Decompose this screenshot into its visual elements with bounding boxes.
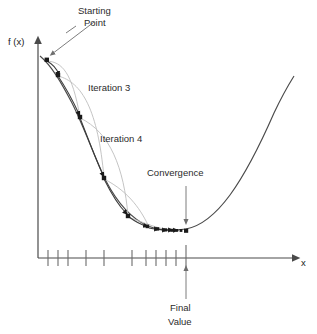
descent-step-3 bbox=[80, 118, 103, 175]
descent-step-1 bbox=[47, 61, 59, 74]
descent-step-5 bbox=[129, 217, 146, 226]
y-axis-label: f (x) bbox=[8, 36, 24, 47]
iteration-marker bbox=[180, 229, 183, 232]
starting-point-label-line1: Starting bbox=[78, 5, 111, 16]
descent-step-2 bbox=[58, 76, 79, 114]
x-axis-label: x bbox=[301, 257, 306, 268]
iteration-marker bbox=[170, 229, 173, 232]
objective-function-curve bbox=[40, 56, 294, 230]
iteration-marker bbox=[56, 73, 60, 77]
final-value-label-line1: Final bbox=[170, 302, 191, 313]
iteration-marker bbox=[102, 176, 106, 180]
iteration-marker-start bbox=[45, 58, 49, 62]
iteration-marker bbox=[146, 225, 150, 229]
iteration-4-label: Iteration 4 bbox=[100, 133, 142, 144]
iteration-marker bbox=[156, 227, 159, 230]
optimization-convergence-figure: f (x) x Starting Point Iteration 3 Itera… bbox=[0, 0, 317, 334]
starting-point-leader-tail bbox=[66, 26, 76, 33]
iteration-marker bbox=[126, 214, 130, 218]
iteration-marker bbox=[175, 229, 178, 232]
final-value-label-line2: Value bbox=[168, 316, 192, 327]
iteration-marker bbox=[78, 115, 82, 119]
iteration-3-label: Iteration 3 bbox=[88, 82, 130, 93]
convergence-label: Convergence bbox=[147, 167, 204, 178]
x-axis-ticks bbox=[48, 245, 186, 268]
starting-point-label-line2: Point bbox=[84, 17, 106, 28]
iteration-marker-final bbox=[184, 229, 188, 233]
iteration-marker bbox=[164, 228, 167, 231]
figure-canvas: f (x) x Starting Point Iteration 3 Itera… bbox=[0, 0, 317, 334]
